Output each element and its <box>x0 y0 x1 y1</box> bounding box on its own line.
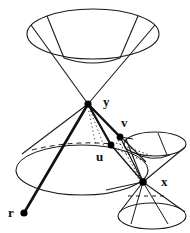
label-v: v <box>121 115 128 130</box>
point-y <box>84 100 91 107</box>
label-r: r <box>8 205 14 220</box>
light-cone-figure: y v u x r <box>0 0 190 233</box>
dotted-ray-bundle-y-u <box>88 107 110 146</box>
upper-cone-inner-right-slant <box>120 16 138 58</box>
point-markers <box>20 100 146 216</box>
lower-cone-left-generator <box>22 104 88 154</box>
small-upper-cone-inner-slant <box>158 133 167 155</box>
small-lower-cone <box>106 182 186 229</box>
segment-y-to-r <box>24 104 88 213</box>
point-v <box>117 134 124 141</box>
cone-diagram-svg: y v u x r <box>0 0 190 233</box>
small-lower-cone-inner-left-slant <box>131 182 143 224</box>
point-r <box>20 209 27 216</box>
upper-cone-inner-left-slant <box>47 16 64 58</box>
dotted-ray-bundle-v-x <box>113 140 152 180</box>
upper-cone-right-generator <box>88 25 155 104</box>
point-u <box>108 142 115 149</box>
upper-cone-left-generator <box>31 25 88 104</box>
small-upper-cone-left-generator <box>126 139 143 182</box>
label-y: y <box>103 94 110 109</box>
small-upper-cone <box>124 132 186 182</box>
small-lower-cone-base-front-arc <box>118 216 186 229</box>
label-x: x <box>161 174 168 189</box>
upper-light-cone <box>27 9 159 104</box>
point-x <box>139 178 147 186</box>
label-u: u <box>96 149 103 164</box>
